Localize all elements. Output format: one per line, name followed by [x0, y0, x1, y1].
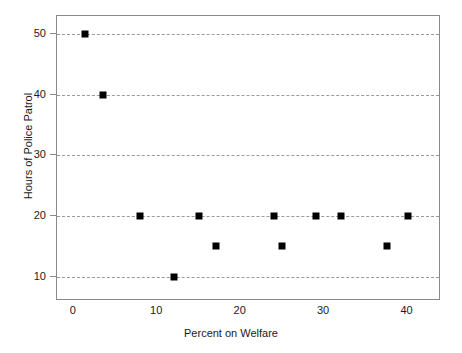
- x-axis-title: Percent on Welfare: [0, 327, 462, 339]
- data-point: [170, 273, 177, 280]
- data-point: [195, 213, 202, 220]
- x-axis-tick-label: 20: [225, 304, 255, 316]
- y-axis-tick-label: 50: [24, 27, 46, 39]
- data-point: [212, 243, 219, 250]
- y-axis-tick-label: 10: [24, 270, 46, 282]
- y-axis-title: Hours of Police Patrol: [22, 56, 34, 236]
- gridline-y: [57, 216, 439, 217]
- x-axis-tick-label: 0: [58, 304, 88, 316]
- scatter-plot-figure: 1020304050 010203040 Percent on Welfare …: [0, 0, 462, 353]
- data-point: [404, 213, 411, 220]
- gridline-y: [57, 155, 439, 156]
- y-axis-tick: [50, 154, 56, 155]
- data-point: [383, 243, 390, 250]
- data-point: [279, 243, 286, 250]
- data-point: [81, 31, 88, 38]
- data-point: [337, 213, 344, 220]
- y-axis-tick: [50, 215, 56, 216]
- x-axis-tick-label: 40: [392, 304, 422, 316]
- y-axis-tick: [50, 94, 56, 95]
- data-point: [99, 91, 106, 98]
- y-axis-tick: [50, 276, 56, 277]
- gridline-y: [57, 277, 439, 278]
- gridline-y: [57, 34, 439, 35]
- gridline-y: [57, 95, 439, 96]
- data-point: [312, 213, 319, 220]
- y-axis-tick: [50, 33, 56, 34]
- data-point: [137, 213, 144, 220]
- x-axis-tick-label: 10: [141, 304, 171, 316]
- plot-area: [56, 15, 440, 300]
- data-point: [271, 213, 278, 220]
- x-axis-tick-label: 30: [308, 304, 338, 316]
